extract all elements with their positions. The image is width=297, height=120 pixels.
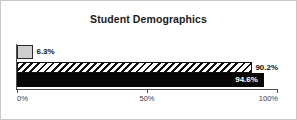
bar-series-1[interactable] (17, 45, 33, 59)
x-axis-tick-0 (17, 89, 18, 93)
x-axis-label-0: 0% (17, 94, 28, 103)
x-axis-tick-100 (277, 89, 278, 93)
bar-label-series-1: 6.3% (36, 48, 54, 56)
bar-label-series-2: 90.2% (255, 64, 278, 72)
x-axis-tick-50 (147, 89, 148, 93)
bar-series-3[interactable] (17, 73, 264, 87)
bar-series-2[interactable] (17, 62, 252, 73)
bar-label-series-3: 94.6% (235, 76, 258, 84)
chart-container: Student Demographics 6.3% 90.2% 94.6% 0%… (0, 0, 297, 120)
x-axis-label-100: 100% (259, 94, 278, 103)
x-axis-label-50: 50% (139, 94, 154, 103)
chart-title: Student Demographics (1, 13, 296, 25)
plot-area: 6.3% 90.2% 94.6% 0% 50% 100% (16, 44, 278, 89)
